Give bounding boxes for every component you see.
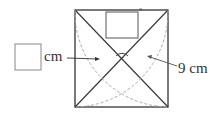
- right-arrow-line: [150, 57, 177, 66]
- side-length-label: 9 cm: [178, 60, 208, 77]
- left-arrowhead: [95, 57, 100, 61]
- right-arrowhead: [147, 55, 152, 59]
- answer-unit-label: cm: [44, 48, 62, 65]
- degree-mark: °: [139, 7, 142, 16]
- angle-answer-box[interactable]: [106, 12, 138, 38]
- left-arrow-line: [67, 58, 98, 59]
- length-answer-box[interactable]: [15, 44, 41, 70]
